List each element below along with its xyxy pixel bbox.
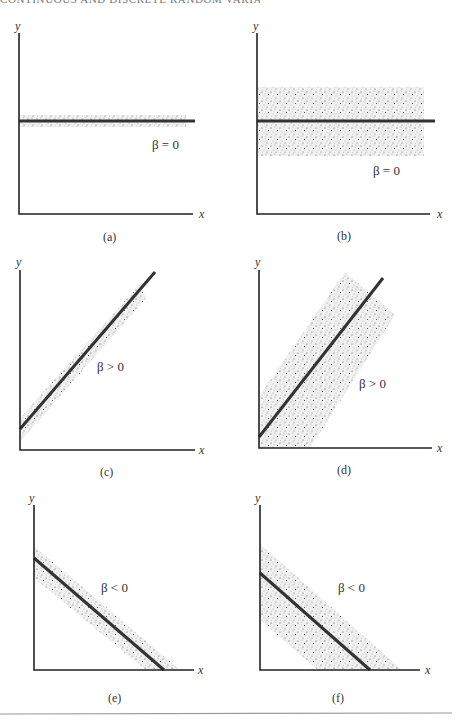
- beta-annotation: β > 0: [97, 359, 124, 374]
- panel-caption: (d): [337, 463, 351, 477]
- y-axis-label: y: [14, 19, 21, 33]
- panel-caption: (f): [332, 691, 344, 705]
- panel-f: y x β < 0 (f): [254, 491, 431, 705]
- scatter-band: [34, 546, 180, 670]
- scatter-band: [260, 544, 402, 670]
- y-axis-label: y: [254, 491, 261, 505]
- regression-figure: y x β = 0 (a) y x β = 0 (b) y x β > 0 (c…: [0, 0, 459, 728]
- panel-b: y x β = 0 (b): [252, 19, 443, 243]
- beta-annotation: β < 0: [338, 580, 365, 595]
- page-rule: [0, 713, 452, 714]
- x-axis-label: x: [436, 207, 443, 221]
- beta-annotation: β > 0: [359, 376, 386, 391]
- panel-caption: (c): [100, 465, 113, 479]
- y-axis-label: y: [254, 255, 261, 269]
- regression-line: [20, 272, 155, 429]
- panel-a: y x β = 0 (a): [14, 19, 205, 244]
- x-axis-label: x: [198, 207, 205, 221]
- panel-e: y x β < 0 (e): [28, 491, 204, 705]
- panel-c: y x β > 0 (c): [15, 255, 205, 479]
- panel-caption: (a): [103, 230, 116, 244]
- x-axis-label: x: [424, 663, 431, 677]
- x-axis-label: x: [436, 441, 443, 455]
- scatter-band: [260, 272, 395, 448]
- x-axis-label: x: [198, 443, 205, 457]
- y-axis-label: y: [252, 19, 259, 33]
- y-axis-label: y: [15, 255, 22, 269]
- panel-d: y x β > 0 (d): [254, 255, 443, 477]
- panel-caption: (e): [108, 691, 121, 705]
- panel-caption: (b): [337, 229, 351, 243]
- beta-annotation: β < 0: [101, 580, 128, 595]
- scatter-band: [20, 284, 146, 442]
- beta-annotation: β = 0: [373, 163, 400, 178]
- x-axis-label: x: [197, 663, 204, 677]
- beta-annotation: β = 0: [152, 137, 179, 152]
- y-axis-label: y: [28, 491, 35, 505]
- regression-line: [34, 558, 164, 670]
